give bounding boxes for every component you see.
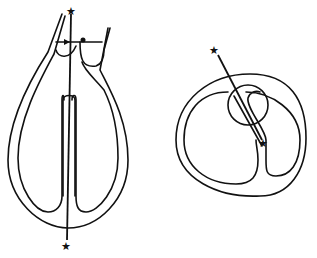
diagonal-cutting-line	[218, 55, 262, 140]
star-marker-outside-icon: ★	[209, 44, 219, 57]
star-marker-top-icon: ★	[66, 5, 76, 18]
highlight-circle	[228, 85, 268, 125]
diagram-canvas: ★ ★ ★ ★	[0, 0, 317, 258]
right-chamber	[72, 62, 118, 212]
marker-dot	[81, 38, 86, 43]
right-vessel	[80, 28, 110, 66]
right-chamber-cross	[246, 91, 300, 176]
left-chamber-cross	[184, 92, 258, 184]
arrowhead-icon	[64, 39, 70, 45]
star-marker-inside-icon: ★	[258, 137, 268, 150]
star-marker-bottom-icon: ★	[61, 240, 71, 253]
outer-ring	[176, 74, 306, 196]
longitudinal-section-figure: ★ ★	[8, 5, 128, 253]
cross-section-figure: ★ ★	[176, 44, 306, 196]
left-chamber	[18, 16, 65, 212]
left-vessel	[56, 46, 76, 56]
vertical-cutting-line	[67, 14, 71, 240]
